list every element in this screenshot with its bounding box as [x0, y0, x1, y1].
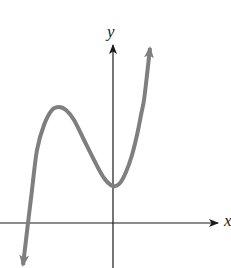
- y-axis-label: y: [107, 22, 115, 42]
- x-axis-label: x: [224, 211, 231, 231]
- chart-canvas: [0, 0, 231, 268]
- curve-arrow-top: [147, 48, 150, 75]
- curve: [26, 75, 147, 240]
- curve-arrow-bottom: [23, 240, 26, 265]
